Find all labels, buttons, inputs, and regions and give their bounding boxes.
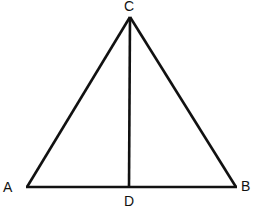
segment-ac	[27, 17, 130, 187]
segment-cb	[130, 17, 236, 187]
label-c: C	[124, 0, 134, 14]
segment-cd	[129, 17, 130, 187]
triangle-diagram: C A B D	[0, 0, 258, 210]
label-a: A	[3, 179, 13, 195]
label-d: D	[124, 193, 134, 209]
label-b: B	[241, 178, 250, 194]
